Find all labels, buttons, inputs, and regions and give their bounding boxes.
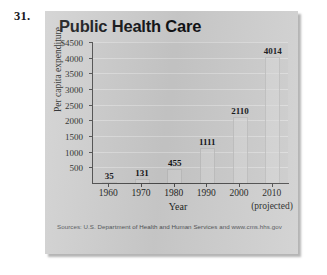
x-axis-title: Year (169, 201, 187, 212)
y-tick-label: 3500 (65, 69, 83, 79)
y-tick-label: 4000 (65, 54, 83, 64)
chart-figure-card: Public Health Care Per capita expenditur… (45, 11, 298, 254)
source-note: Sources: U.S. Department of Health and H… (57, 223, 282, 230)
bar-value-label: 35 (105, 171, 114, 181)
bar: 2110 (233, 117, 248, 183)
bar-value-label: 2110 (231, 106, 249, 116)
bar-value-label: 4014 (264, 46, 282, 56)
projected-annotation: (projected) (251, 201, 293, 211)
y-tick-label: 1500 (65, 132, 83, 142)
y-tick-label: $4500 (61, 38, 84, 48)
x-axis-line: 196019701980199020002010 (92, 183, 289, 184)
y-tick-label: 500 (70, 163, 84, 173)
x-tick (141, 184, 142, 187)
plot-area: 5001000150020002500300035004000$4500 351… (92, 42, 288, 183)
y-tick: 3500 (89, 73, 93, 74)
y-tick: $4500 (89, 42, 93, 43)
bar: 1111 (200, 148, 215, 183)
x-tick-label: 2000 (230, 188, 249, 198)
x-tick-label: 1980 (164, 188, 183, 198)
bar: 4014 (265, 57, 280, 183)
x-tick (174, 184, 175, 187)
bar: 455 (167, 169, 182, 183)
y-tick: 4000 (89, 58, 93, 59)
exercise-number: 31. (14, 9, 30, 24)
y-tick: 2000 (89, 120, 93, 121)
chart-title: Public Health Care (59, 17, 201, 36)
y-tick-label: 1000 (65, 148, 83, 158)
gridline (93, 73, 288, 74)
x-tick (206, 184, 207, 187)
y-tick: 1000 (89, 152, 93, 153)
gridline (93, 105, 288, 106)
gridline (93, 167, 288, 168)
bar-value-label: 131 (135, 168, 149, 178)
bar-value-label: 1111 (199, 137, 216, 147)
y-tick: 1500 (89, 136, 93, 137)
y-tick-label: 2000 (65, 116, 83, 126)
x-tick-label: 1970 (132, 188, 151, 198)
gridline (93, 89, 288, 90)
gridline (93, 42, 288, 43)
gridline (93, 136, 288, 137)
y-tick: 2500 (89, 105, 93, 106)
gridline (93, 58, 288, 59)
x-tick-label: 1990 (197, 188, 216, 198)
gridline (93, 120, 288, 121)
x-tick (239, 184, 240, 187)
x-tick (108, 184, 109, 187)
gridline (93, 152, 288, 153)
x-tick-label: 1960 (99, 188, 118, 198)
y-tick-label: 3000 (65, 85, 83, 95)
bar-value-label: 455 (168, 158, 182, 168)
y-tick: 3000 (89, 89, 93, 90)
x-tick-label: 2010 (262, 188, 281, 198)
x-tick (272, 184, 273, 187)
y-tick: 500 (89, 167, 93, 168)
y-tick-label: 2500 (65, 101, 83, 111)
